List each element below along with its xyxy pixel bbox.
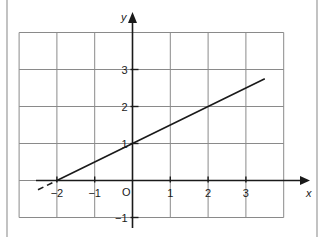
x-tick-label: 2 [205, 187, 211, 199]
x-tick-label: 1 [167, 187, 173, 199]
y-tick-label: 3 [121, 64, 127, 76]
origin-label: O [122, 186, 131, 198]
y-tick-label: −1 [115, 212, 128, 224]
data-series [38, 79, 265, 190]
x-axis [36, 176, 310, 185]
chart: −2−1123−1123 x y O [0, 0, 324, 237]
x-tick-label: −2 [51, 187, 64, 199]
y-axis-label: y [120, 11, 128, 23]
x-axis-label: x [305, 187, 312, 199]
y-tick-label: 2 [121, 101, 127, 113]
x-tick-label: 3 [243, 187, 249, 199]
x-tick-label: −1 [88, 187, 101, 199]
x-axis-arrow-icon [300, 176, 310, 185]
line-series [57, 79, 265, 181]
y-axis-arrow-icon [128, 12, 137, 23]
